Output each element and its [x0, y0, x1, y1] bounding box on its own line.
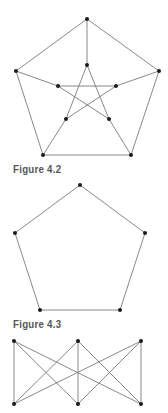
graph-vertex — [129, 153, 133, 157]
graph-edge — [66, 86, 116, 119]
graph-edge — [116, 71, 159, 86]
complete-bipartite-k33-graph — [12, 339, 143, 406]
graph-edge — [66, 65, 87, 119]
graph-edge — [87, 19, 159, 71]
graph-vertex — [85, 17, 89, 21]
figure-caption-4-2: Figure 4.2 — [13, 163, 61, 175]
graph-edge — [43, 119, 66, 155]
graph-vertex — [114, 84, 118, 88]
graph-edge — [109, 119, 131, 155]
graph-vertex — [118, 308, 122, 312]
graph-vertex — [139, 402, 143, 406]
graph-vertex — [64, 117, 68, 121]
graph-vertex — [143, 231, 147, 235]
graph-edge — [15, 233, 40, 310]
graph-edge — [15, 185, 80, 233]
graph-edge — [16, 71, 58, 86]
pentagon-cycle-graph — [13, 183, 147, 312]
graph-vertex — [56, 84, 60, 88]
graph-edge — [58, 86, 109, 119]
graph-vertex — [12, 402, 16, 406]
graph-figures-canvas — [0, 0, 168, 413]
graph-vertex — [76, 402, 80, 406]
graph-vertex — [78, 183, 82, 187]
graph-vertex — [107, 117, 111, 121]
graph-vertex — [38, 308, 42, 312]
graph-edge — [16, 71, 43, 155]
graph-vertex — [14, 69, 18, 73]
graph-vertex — [13, 231, 17, 235]
graph-edge — [87, 65, 109, 119]
graph-vertex — [157, 69, 161, 73]
graph-vertex — [12, 339, 16, 343]
graph-edge — [16, 19, 87, 71]
graph-vertex — [41, 153, 45, 157]
figure-caption-4-3: Figure 4.3 — [13, 318, 61, 330]
petersen-graph — [14, 17, 161, 157]
graph-vertex — [139, 339, 143, 343]
graph-edge — [80, 185, 145, 233]
graph-edge — [120, 233, 145, 310]
graph-edge — [131, 71, 159, 155]
graph-vertex — [85, 63, 89, 67]
graph-vertex — [76, 339, 80, 343]
